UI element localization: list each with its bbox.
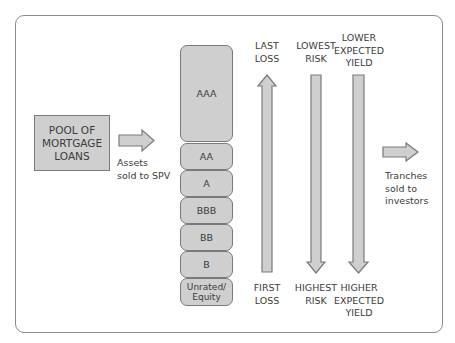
tranche-bb: BB (180, 224, 233, 251)
higher-yield-label: HIGHER EXPECTED YIELD (332, 282, 386, 320)
tranche-aaa: AAA (180, 45, 233, 142)
first-loss-label: FIRST LOSS (247, 282, 287, 307)
tranche-b: B (180, 251, 233, 278)
lower-yield-label: LOWER EXPECTED YIELD (332, 32, 386, 70)
tranche-unrated-equity: Unrated/ Equity (180, 278, 233, 306)
last-loss-label: LAST LOSS (247, 40, 287, 65)
tranche-aa: AA (180, 143, 233, 170)
tranche-bbb: BBB (180, 197, 233, 224)
last-loss-up-arrow-icon (258, 75, 276, 272)
tranches-sold-label: Tranches sold to investors (385, 170, 428, 208)
risk-down-arrow-icon (307, 75, 325, 273)
yield-down-arrow-icon (349, 75, 368, 273)
assets-arrow-icon (119, 130, 154, 151)
investors-arrow-icon (383, 143, 418, 161)
tranche-a: A (180, 170, 233, 197)
assets-sold-label: Assets sold to SPV (117, 157, 170, 182)
